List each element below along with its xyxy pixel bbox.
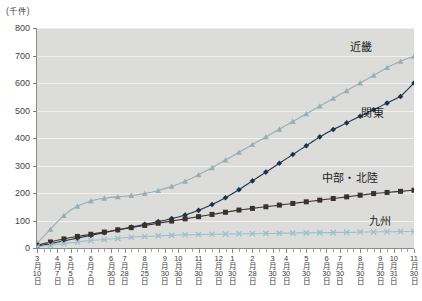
data-point-marker xyxy=(182,178,188,183)
x-tick-mark xyxy=(293,249,294,252)
data-point-marker xyxy=(330,127,336,133)
data-point-marker xyxy=(384,100,390,106)
x-tick-mark xyxy=(266,249,267,252)
x-tick-mark xyxy=(353,249,354,252)
data-point-marker xyxy=(357,80,363,85)
x-tick-label: 8月25日 xyxy=(137,255,153,285)
x-tick-mark xyxy=(172,249,173,252)
x-tick-mark-major xyxy=(394,249,395,253)
data-point-marker xyxy=(250,206,255,211)
x-tick-label: 10月30日 xyxy=(170,255,186,285)
data-point-marker xyxy=(183,216,188,221)
data-point-marker xyxy=(330,96,336,101)
data-point-marker xyxy=(196,172,202,177)
x-tick-mark-major xyxy=(340,249,341,253)
x-tick-mark xyxy=(151,249,152,252)
data-point-marker xyxy=(398,189,403,194)
x-tick-mark-major xyxy=(286,249,287,253)
x-tick-label: 7月28日 xyxy=(117,255,133,285)
x-tick-mark xyxy=(118,249,119,252)
x-tick-mark-major xyxy=(57,249,58,253)
data-point-marker xyxy=(142,223,147,228)
series-plot xyxy=(37,28,414,248)
data-point-marker xyxy=(384,65,390,70)
data-point-marker xyxy=(276,126,282,131)
data-point-marker xyxy=(209,202,215,208)
series-0 xyxy=(37,53,414,245)
series-1 xyxy=(37,80,414,248)
series-line xyxy=(37,83,414,246)
x-tick-mark xyxy=(98,249,99,252)
x-tick-label: 5月5日 xyxy=(63,255,79,285)
data-point-marker xyxy=(129,225,134,230)
data-point-marker xyxy=(196,208,202,214)
series-annotation-label: 中部・北陸 xyxy=(322,169,379,185)
x-tick-mark xyxy=(246,249,247,252)
y-tick-label: 300 xyxy=(2,161,30,171)
x-tick-mark-major xyxy=(111,249,112,253)
data-point-marker xyxy=(74,203,80,208)
x-tick-mark-major xyxy=(273,249,274,253)
y-tick-label: 800 xyxy=(2,23,30,33)
data-point-marker xyxy=(344,88,350,93)
x-tick-label: 11月30日 xyxy=(406,255,422,285)
x-tick-label: 1月30日 xyxy=(224,255,240,285)
x-tick-mark xyxy=(50,249,51,252)
x-tick-mark xyxy=(226,249,227,252)
x-tick-mark xyxy=(158,249,159,252)
data-point-marker xyxy=(371,191,376,196)
data-point-marker xyxy=(398,58,404,63)
x-tick-label: 3月10日 xyxy=(29,255,45,285)
x-tick-mark xyxy=(407,249,408,252)
x-tick-mark xyxy=(387,249,388,252)
x-tick-mark xyxy=(374,249,375,252)
data-point-marker xyxy=(277,161,283,167)
data-point-marker xyxy=(236,187,242,193)
y-tick-label: 700 xyxy=(2,51,30,61)
data-point-marker xyxy=(385,190,390,195)
x-tick-mark xyxy=(333,249,334,252)
x-tick-mark xyxy=(64,249,65,252)
data-point-marker xyxy=(263,169,269,175)
y-tick-label: 200 xyxy=(2,188,30,198)
x-tick-mark xyxy=(320,249,321,252)
x-tick-mark xyxy=(84,249,85,252)
data-point-marker xyxy=(317,134,323,140)
x-tick-label: 4月30日 xyxy=(278,255,294,285)
x-tick-mark-major xyxy=(252,249,253,253)
x-tick-mark xyxy=(347,249,348,252)
data-point-marker xyxy=(115,227,120,232)
x-tick-mark-major xyxy=(232,249,233,253)
x-tick-mark-major xyxy=(125,249,126,253)
x-tick-mark-major xyxy=(178,249,179,253)
x-tick-mark xyxy=(131,249,132,252)
data-point-marker xyxy=(344,120,350,126)
x-tick-label: 11月30日 xyxy=(191,255,207,285)
x-tick-mark-major xyxy=(326,249,327,253)
y-tick-label: 400 xyxy=(2,133,30,143)
data-point-marker xyxy=(102,230,107,235)
x-tick-mark xyxy=(259,249,260,252)
data-point-marker xyxy=(263,204,268,209)
data-point-marker xyxy=(277,203,282,208)
data-point-marker xyxy=(236,208,241,213)
x-tick-label: 10月31日 xyxy=(386,255,402,285)
x-tick-mark xyxy=(205,249,206,252)
x-tick-mark-major xyxy=(360,249,361,253)
data-point-marker xyxy=(88,232,93,237)
x-tick-mark xyxy=(212,249,213,252)
x-tick-mark-major xyxy=(219,249,220,253)
x-tick-mark xyxy=(279,249,280,252)
data-point-marker xyxy=(250,142,256,147)
data-point-marker xyxy=(61,236,66,241)
y-axis-unit-label: (千件) xyxy=(6,4,30,16)
x-tick-mark xyxy=(192,249,193,252)
data-point-marker xyxy=(290,201,295,206)
data-point-marker xyxy=(290,119,296,124)
data-point-marker xyxy=(358,193,363,198)
x-tick-mark-major xyxy=(71,249,72,253)
data-point-marker xyxy=(371,72,377,77)
x-tick-label: 2月28日 xyxy=(244,255,260,285)
x-tick-mark-major xyxy=(199,249,200,253)
